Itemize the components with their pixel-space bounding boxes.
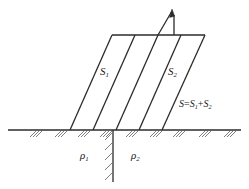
slant-line-4 [139,35,181,130]
sum-term-a-sub: 1 [195,103,198,110]
label-rho1: ρ1 [80,150,89,161]
slant-line-2 [93,35,135,130]
ground-hatching [30,131,236,137]
flow-arrow-shaft [158,11,172,35]
label-rho2: ρ2 [131,150,140,161]
label-s2-symbol: S [168,65,174,77]
slant-lines-group [70,35,205,130]
figure-canvas: S1 S2 S=S1+S2 ρ1 ρ2 [0,0,249,189]
label-rho1-subscript: 1 [85,155,88,162]
slant-line-3 [116,35,158,130]
sum-term-b-sub: 2 [208,103,211,110]
label-s2-subscript: 2 [174,71,177,78]
interface-hatching [105,133,112,180]
label-s1-symbol: S [100,65,106,77]
label-s1-subscript: 1 [106,71,109,78]
label-s1: S1 [100,66,109,77]
slant-line-5 [162,35,205,130]
label-s2: S2 [168,66,177,77]
diagram-svg [0,0,249,189]
label-area-sum-equation: S=S1+S2 [179,99,211,109]
sum-term-a: S [190,98,195,109]
slant-line-1 [70,35,112,130]
label-rho2-subscript: 2 [136,155,139,162]
